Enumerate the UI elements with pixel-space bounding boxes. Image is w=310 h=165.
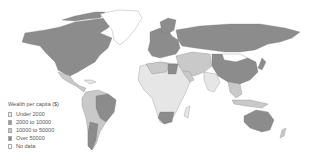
map-legend: Wealth per capita ($) Under 2000 2000 to… (8, 100, 59, 150)
legend-item-10000-50000: 10000 to 50000 (8, 126, 59, 134)
legend-swatch (8, 120, 12, 125)
caribbean (84, 80, 96, 84)
argentina (88, 122, 98, 150)
legend-item-under-2000: Under 2000 (8, 110, 59, 118)
legend-swatch (8, 112, 12, 117)
legend-label: 2000 to 10000 (16, 118, 51, 126)
legend-label: No data (16, 142, 35, 150)
australia (244, 110, 274, 132)
indonesia (232, 100, 268, 108)
legend-title: Wealth per capita ($) (8, 100, 59, 108)
legend-item-no-data: No data (8, 142, 59, 150)
legend-label: Over 50000 (16, 134, 45, 142)
legend-swatch (8, 128, 12, 133)
scandinavia (160, 18, 176, 34)
legend-swatch (8, 144, 12, 149)
legend-label: Under 2000 (16, 110, 45, 118)
japan (258, 58, 266, 70)
russia (176, 24, 300, 52)
legend-item-2000-10000: 2000 to 10000 (8, 118, 59, 126)
legend-label: 10000 to 50000 (16, 126, 54, 134)
legend-swatch (8, 136, 12, 141)
legend-item-over-50000: Over 50000 (8, 134, 59, 142)
southeast-asia (228, 82, 242, 98)
north-america (22, 18, 115, 76)
new-zealand (280, 128, 286, 138)
madagascar (184, 106, 190, 118)
